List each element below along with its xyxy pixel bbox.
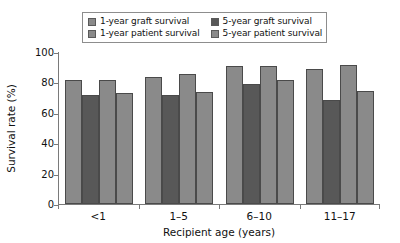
x-tick-label: 11–17 [300, 209, 380, 223]
survival-rate-bar-chart: 1-year graft survival 5-year graft survi… [0, 0, 400, 243]
bar [99, 80, 116, 204]
x-tick-label: 1–5 [139, 209, 219, 223]
bar [65, 80, 82, 204]
legend-grid: 1-year graft survival 5-year graft survi… [88, 16, 321, 39]
y-tick-label: 60 [41, 109, 54, 119]
y-tick-mark [54, 53, 58, 54]
y-tick-mark [54, 83, 58, 84]
bar [243, 84, 260, 204]
x-axis-title: Recipient age (years) [58, 226, 380, 239]
legend-swatch-icon [211, 18, 219, 26]
legend-item-1-year-graft-survival: 1-year graft survival [88, 16, 200, 27]
bar-group [65, 52, 133, 204]
bar [306, 69, 323, 204]
bar [260, 66, 277, 204]
y-tick-mark [54, 114, 58, 115]
bar [323, 100, 340, 204]
bar [196, 92, 213, 204]
x-tick-label: <1 [58, 209, 138, 223]
bar-group [226, 52, 294, 204]
y-tick-label: 40 [41, 139, 54, 149]
y-axis-title: Survival rate (%) [4, 52, 18, 205]
legend-item-label: 1-year patient survival [100, 28, 200, 39]
legend-item-label: 5-year patient survival [223, 28, 323, 39]
legend-swatch-icon [211, 30, 219, 38]
bar [179, 74, 196, 204]
x-axis-labels: <11–56–1011–17 [58, 209, 380, 223]
x-tick-label: 6–10 [219, 209, 299, 223]
legend-item-1-year-patient-survival: 1-year patient survival [88, 28, 200, 39]
bar-group [145, 52, 213, 204]
bar [357, 91, 374, 204]
bar [162, 95, 179, 204]
legend-item-5-year-patient-survival: 5-year patient survival [211, 28, 323, 39]
legend-item-5-year-graft-survival: 5-year graft survival [211, 16, 323, 27]
chart-legend: 1-year graft survival 5-year graft survi… [82, 12, 327, 43]
y-tick-mark [54, 175, 58, 176]
bar-groups [59, 52, 380, 204]
legend-swatch-icon [88, 30, 96, 38]
bar [226, 66, 243, 204]
bar-group [306, 52, 374, 204]
bar [340, 65, 357, 204]
y-tick-label: 20 [41, 170, 54, 180]
y-tick-mark [54, 144, 58, 145]
bar [82, 95, 99, 204]
bar [277, 80, 294, 204]
y-tick-label: 80 [41, 78, 54, 88]
legend-item-label: 5-year graft survival [223, 16, 312, 27]
y-tick-label: 100 [35, 48, 54, 58]
bar [116, 93, 133, 204]
plot-area: 020406080100 [58, 52, 380, 205]
legend-swatch-icon [88, 18, 96, 26]
legend-item-label: 1-year graft survival [100, 16, 189, 27]
bar [145, 77, 162, 204]
